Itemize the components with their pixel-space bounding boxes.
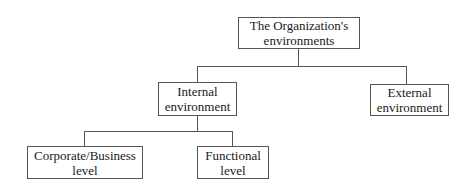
node-label: The Organization's environments — [250, 18, 349, 48]
node-corporate-business-level: Corporate/Business level — [27, 146, 143, 179]
node-external-environment: External environment — [370, 84, 449, 116]
node-functional-level: Functional level — [197, 146, 269, 179]
connector-level1-bar — [197, 66, 407, 67]
connector-to-corporate — [84, 131, 85, 146]
connector-to-external — [406, 66, 407, 84]
connector-level2-bar — [84, 131, 233, 132]
connector-root-down — [298, 48, 299, 66]
node-label: Functional level — [205, 148, 261, 178]
node-organization-environments: The Organization's environments — [238, 17, 360, 49]
connector-internal-down — [197, 115, 198, 131]
node-label: Internal environment — [165, 84, 231, 114]
node-internal-environment: Internal environment — [158, 82, 237, 116]
connector-to-functional — [232, 131, 233, 146]
connector-to-internal — [197, 66, 198, 82]
node-label: Corporate/Business level — [34, 148, 136, 178]
node-label: External environment — [377, 85, 443, 115]
